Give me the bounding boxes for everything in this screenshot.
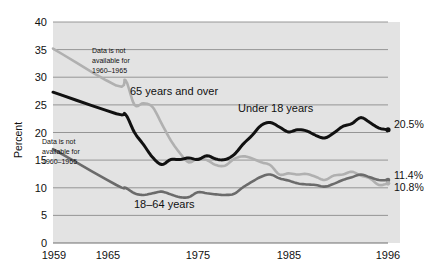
annotation-note-65plus: Data is not available for 1960–1965	[92, 47, 130, 74]
series-label-age18to64: 18–64 years	[134, 198, 195, 210]
end-label-age18to64: 11.4%	[394, 169, 423, 181]
poverty-rate-line-chart: 40 35 30 25 20 15 10 5 0 Percent 1959 19…	[0, 0, 440, 279]
note-65plus-line-1: Data is not	[92, 47, 126, 54]
x-tick-1959: 1959	[42, 249, 66, 261]
y-tick-40: 40	[35, 16, 47, 28]
x-tick-1996: 1996	[376, 249, 400, 261]
annotation-note-under18: Data is not available for 1960–1965	[42, 138, 80, 165]
y-tick-0: 0	[41, 237, 47, 249]
y-axis-title: Percent	[12, 122, 24, 158]
y-tick-10: 10	[35, 182, 47, 194]
end-label-age65plus: 10.8%	[394, 181, 424, 193]
note-65plus-line-2: available for	[92, 57, 130, 64]
y-axis-tick-labels: 40 35 30 25 20 15 10 5 0	[35, 16, 47, 249]
note-under18-line-2: available for	[42, 148, 80, 155]
x-tick-1975: 1975	[186, 249, 210, 261]
note-under18-line-1: Data is not	[42, 138, 76, 145]
y-tick-30: 30	[35, 71, 47, 83]
note-under18-line-3: 1960–1965	[42, 158, 77, 165]
y-tick-25: 25	[35, 99, 47, 111]
x-tick-1985: 1985	[277, 249, 301, 261]
end-marker-age65plus	[386, 181, 391, 186]
end-marker-under18	[385, 127, 390, 132]
chart-svg: 40 35 30 25 20 15 10 5 0 Percent 1959 19…	[0, 0, 440, 279]
note-65plus-line-3: 1960–1965	[92, 67, 127, 74]
series-label-under18: Under 18 years	[238, 102, 314, 114]
end-label-under18: 20.5%	[394, 118, 424, 130]
y-tick-20: 20	[35, 127, 47, 139]
y-tick-5: 5	[41, 209, 47, 221]
series-label-age65plus: 65 years and over	[130, 85, 218, 97]
x-tick-1965: 1965	[96, 249, 120, 261]
y-tick-35: 35	[35, 44, 47, 56]
x-axis-tick-labels: 1959 1965 1975 1985 1996	[42, 249, 400, 261]
